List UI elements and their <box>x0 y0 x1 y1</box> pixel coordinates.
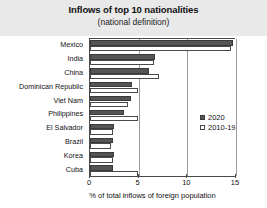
y-axis-label: Cuba <box>0 163 86 177</box>
bar-2010-19 <box>90 46 231 51</box>
bar-2020 <box>90 68 149 73</box>
x-tick-label: 0 <box>87 178 91 187</box>
chart-legend: 20202010-19 <box>200 112 236 132</box>
bar-2010-19 <box>90 157 113 162</box>
bar-2020 <box>90 152 114 157</box>
y-axis-label: Brazil <box>0 135 86 149</box>
bar-row <box>90 136 235 150</box>
bar-row <box>90 53 235 67</box>
page-title: Inflows of top 10 nationalities <box>0 3 267 16</box>
y-axis-labels: MexicoIndiaChinaDominican RepublicViet N… <box>0 38 86 177</box>
legend-item: 2020 <box>200 112 236 122</box>
bar-2010-19 <box>90 116 138 121</box>
bar-row <box>90 150 235 164</box>
legend-item: 2010-19 <box>200 122 236 132</box>
bar-series-group <box>90 39 235 176</box>
y-axis-label: Philippines <box>0 107 86 121</box>
x-tick-label: 5 <box>136 178 140 187</box>
chart-figure: Inflows of top 10 nationalities (nationa… <box>0 0 267 208</box>
bar-row <box>90 164 235 178</box>
chart-title-band: Inflows of top 10 nationalities (nationa… <box>0 0 267 36</box>
bar-row <box>90 95 235 109</box>
legend-label: 2010-19 <box>208 123 236 132</box>
bar-2010-19 <box>90 74 159 79</box>
bar-2010-19 <box>90 60 154 65</box>
x-tick-label: 10 <box>182 178 190 187</box>
y-axis-label: India <box>0 52 86 66</box>
y-axis-label: China <box>0 66 86 80</box>
bar-2010-19 <box>90 88 138 93</box>
gridline <box>236 39 237 176</box>
bar-2020 <box>90 124 114 129</box>
x-tick-label: 15 <box>231 178 239 187</box>
bar-2010-19 <box>90 171 138 176</box>
x-axis-ticks: 051015 <box>89 178 249 190</box>
bar-2020 <box>90 40 233 45</box>
y-axis-label: Mexico <box>0 38 86 52</box>
legend-label: 2020 <box>208 113 225 122</box>
x-axis-title: % of total inflows of foreign population <box>0 191 267 200</box>
bar-2020 <box>90 138 113 143</box>
plot-area <box>89 38 235 177</box>
bar-2010-19 <box>90 129 113 134</box>
y-axis-label: Viet Nam <box>0 94 86 108</box>
y-axis-label: Dominican Republic <box>0 80 86 94</box>
bar-row <box>90 81 235 95</box>
bar-row <box>90 67 235 81</box>
filled-square-icon <box>200 115 205 120</box>
bar-2020 <box>90 110 124 115</box>
bar-row <box>90 39 235 53</box>
y-axis-label: Korea <box>0 149 86 163</box>
bar-2020 <box>90 96 131 101</box>
bar-2020 <box>90 54 155 59</box>
bar-2010-19 <box>90 102 128 107</box>
y-axis-label: El Salvador <box>0 121 86 135</box>
bar-2020 <box>90 82 132 87</box>
chart-subtitle: (national definition) <box>0 16 267 28</box>
bar-2010-19 <box>90 143 111 148</box>
bar-2020 <box>90 165 113 170</box>
hollow-square-icon <box>200 125 205 130</box>
